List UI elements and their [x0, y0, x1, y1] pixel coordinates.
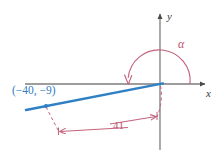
dashed-guide-left [46, 107, 59, 131]
diagram-canvas: y x α (−40, −9) 41 [0, 0, 224, 154]
y-axis-label: y [166, 10, 172, 22]
dashed-guide-right [157, 86, 161, 117]
measurement-group [59, 112, 158, 135]
x-axis-label: x [205, 87, 211, 99]
point-coordinate-label: (−40, −9) [12, 84, 56, 97]
angle-arc-group [125, 50, 191, 85]
dashed-guides-group [46, 86, 161, 131]
angle-arc [128, 50, 190, 84]
angle-symbol-label: α [178, 37, 185, 51]
measurement-length-label: 41 [113, 119, 124, 131]
angle-diagram-figure: y x α (−40, −9) 41 [0, 0, 224, 154]
